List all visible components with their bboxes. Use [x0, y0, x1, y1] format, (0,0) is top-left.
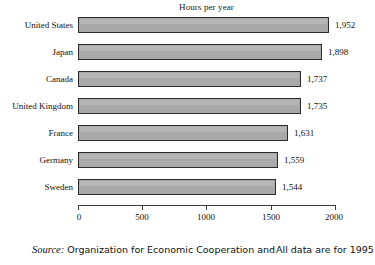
bar-highlight [80, 127, 286, 132]
plot-area: United States 1,952 Japan 1,898 Canada [0, 0, 375, 200]
category-label: Japan [0, 44, 73, 60]
bar-value-label: 1,544 [282, 179, 302, 195]
source-label: Source: [32, 244, 64, 255]
category-label: Canada [0, 71, 73, 87]
table-row: Canada 1,737 [0, 71, 375, 87]
data-year-note: All data are for 1995 [276, 244, 374, 255]
bar-highlight [80, 100, 299, 105]
bar-value-label: 1,735 [307, 98, 327, 114]
axis-tick [142, 205, 143, 210]
axis-tick [206, 205, 207, 210]
axis-tick-label: 500 [135, 212, 149, 222]
bar-highlight [80, 181, 274, 186]
table-row: Sweden 1,544 [0, 179, 375, 195]
axis-tick-label: 0 [77, 212, 82, 222]
category-label: France [0, 125, 73, 141]
axis-tick-label: 1500 [262, 212, 280, 222]
bar[interactable] [78, 98, 301, 114]
bar-highlight [80, 46, 320, 51]
category-label: Sweden [0, 179, 73, 195]
source-note: Source: Organization for Economic Cooper… [32, 244, 275, 255]
chart-container: Hours per year United States 1,952 Japan… [0, 0, 375, 265]
axis-tick-label: 1000 [197, 212, 215, 222]
source-text: Organization for Economic Cooperation an… [64, 244, 275, 255]
bar-value-label: 1,952 [335, 17, 355, 33]
bar-highlight [80, 19, 327, 24]
table-row: France 1,631 [0, 125, 375, 141]
bar[interactable] [78, 71, 301, 87]
table-row: Japan 1,898 [0, 44, 375, 60]
bar-value-label: 1,559 [284, 152, 304, 168]
category-label: United Kingdom [0, 98, 73, 114]
axis-tick [271, 205, 272, 210]
category-label: United States [0, 17, 73, 33]
bar[interactable] [78, 152, 278, 168]
x-axis: 0 500 1000 1500 2000 [78, 205, 336, 229]
bar-value-label: 1,631 [294, 125, 314, 141]
bar-highlight [80, 73, 299, 78]
bar-highlight [80, 154, 276, 159]
bar-value-label: 1,737 [307, 71, 327, 87]
table-row: Germany 1,559 [0, 152, 375, 168]
category-label: Germany [0, 152, 73, 168]
axis-tick [78, 205, 79, 210]
axis-tick [335, 205, 336, 210]
bar[interactable] [78, 17, 329, 33]
axis-line [78, 205, 336, 206]
bar-value-label: 1,898 [328, 44, 348, 60]
axis-tick-label: 2000 [325, 212, 343, 222]
bar[interactable] [78, 179, 276, 195]
table-row: United States 1,952 [0, 17, 375, 33]
bar[interactable] [78, 44, 322, 60]
chart-footer: Source: Organization for Economic Cooper… [0, 244, 375, 265]
table-row: United Kingdom 1,735 [0, 98, 375, 114]
bar[interactable] [78, 125, 288, 141]
